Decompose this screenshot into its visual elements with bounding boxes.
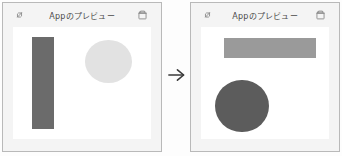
trash-icon[interactable] [314,9,327,22]
expand-diagonal-icon[interactable] [13,9,26,22]
preview-canvas-wrap [191,27,339,151]
shape-light-circle[interactable] [85,40,132,83]
arrow-right-icon [165,64,189,86]
comparison-stage: Appのプレビュー [0,0,342,156]
shape-tall-rectangle[interactable] [32,37,54,129]
expand-diagonal-icon[interactable] [201,9,214,22]
panel-titlebar: Appのプレビュー [191,3,339,27]
panel-title: Appのプレビュー [232,10,297,21]
preview-canvas[interactable] [13,27,151,139]
shape-wide-rectangle[interactable] [224,38,316,58]
shape-dark-circle[interactable] [215,80,269,133]
trash-icon[interactable] [136,9,149,22]
app-preview-panel-before: Appのプレビュー [2,2,162,152]
preview-canvas-wrap [3,27,161,151]
app-preview-panel-after: Appのプレビュー [190,2,340,152]
panel-title: Appのプレビュー [49,10,114,21]
panel-titlebar: Appのプレビュー [3,3,161,27]
preview-canvas[interactable] [201,27,329,139]
